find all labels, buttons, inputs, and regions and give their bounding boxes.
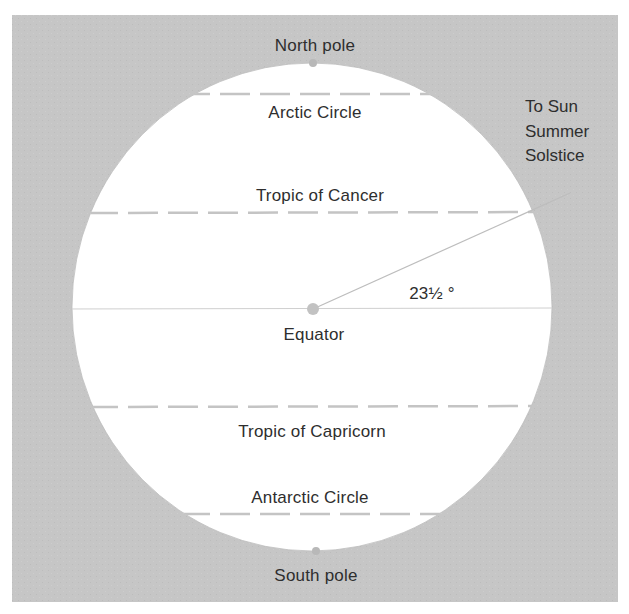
antarctic-circle-label: Antarctic Circle [251,489,369,506]
center-dot [307,303,319,315]
north-pole-label: North pole [275,37,355,54]
tropic-of-cancer-label: Tropic of Cancer [256,187,384,204]
sun-direction-label: To Sun Summer Solstice [525,95,589,169]
arctic-circle-label: Arctic Circle [268,104,361,121]
diagram-canvas [0,0,629,614]
south-pole-dot [312,547,320,555]
sun-label-line-3: Solstice [525,144,589,169]
equator-label: Equator [284,326,345,343]
tropic-of-capricorn-label: Tropic of Capricorn [238,423,386,440]
tilt-angle-label: 23½ ° [409,285,455,302]
earth-solstice-diagram: North pole Arctic Circle To Sun Summer S… [0,0,629,614]
south-pole-label: South pole [274,567,357,584]
sun-label-line-2: Summer [525,120,589,145]
north-pole-dot [309,59,317,67]
sun-label-line-1: To Sun [525,95,589,120]
